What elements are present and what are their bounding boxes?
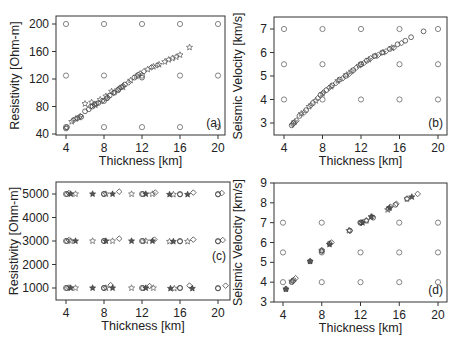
x-tick-label: 4 bbox=[63, 306, 70, 320]
x-tick-label: 20 bbox=[431, 141, 445, 155]
x-tick-label: 8 bbox=[318, 308, 325, 322]
reference-point-circle-icon bbox=[177, 125, 182, 130]
panel-b-points bbox=[281, 26, 440, 127]
data-point-star-icon bbox=[186, 44, 192, 50]
y-tick-label: 4000 bbox=[22, 211, 49, 225]
data-point-circle-icon bbox=[178, 286, 183, 291]
y-tick-label: 40 bbox=[36, 127, 50, 141]
panel-d-y-label: Seismic Velocity [km/s] bbox=[231, 179, 245, 306]
data-point-star-icon bbox=[185, 238, 191, 244]
reference-point-circle-icon bbox=[435, 97, 440, 102]
reference-point-circle-icon bbox=[101, 125, 106, 130]
reference-point-circle-icon bbox=[280, 280, 285, 285]
reference-point-circle-icon bbox=[320, 97, 325, 102]
reference-point-circle-icon bbox=[139, 21, 144, 26]
panel-d-tag: (d) bbox=[428, 283, 443, 297]
x-tick-label: 20 bbox=[211, 306, 225, 320]
data-point-star-icon bbox=[82, 101, 88, 107]
y-tick-label: 200 bbox=[29, 17, 49, 31]
reference-point-circle-icon bbox=[320, 26, 325, 31]
y-tick-label: 120 bbox=[29, 72, 49, 86]
panel-a-points bbox=[63, 21, 220, 130]
data-point-star-icon bbox=[129, 238, 135, 244]
data-point-star-icon bbox=[150, 285, 156, 291]
data-point-star-icon bbox=[298, 110, 304, 116]
panel-b-velocity-vs-thickness: 48121620 34567 Thickness [km] Seismic Ve… bbox=[231, 12, 447, 168]
panel-c-y-axis: 10002000300040005000 bbox=[22, 187, 56, 295]
data-point-diamond-icon bbox=[394, 201, 400, 207]
panel-c-x-axis: 48121620 bbox=[63, 300, 225, 320]
data-point-diamond-icon bbox=[116, 189, 122, 195]
y-tick-label: 6 bbox=[260, 236, 267, 250]
data-point-circle-icon bbox=[421, 29, 426, 34]
panel-d-velocity-vs-thickness: 48121620 3456789 Thickness [km] Seismic … bbox=[231, 176, 447, 335]
reference-point-circle-icon bbox=[281, 62, 286, 67]
panel-c-frame bbox=[56, 182, 230, 300]
x-tick-label: 12 bbox=[354, 141, 368, 155]
x-tick-label: 16 bbox=[393, 308, 407, 322]
y-tick-label: 6 bbox=[260, 46, 267, 60]
y-tick-label: 1000 bbox=[22, 281, 49, 295]
data-point-star-icon bbox=[72, 238, 78, 244]
panel-a-resistivity-vs-thickness: 48121620 4080120160200 Thickness [km] Re… bbox=[8, 16, 225, 168]
x-tick-label: 8 bbox=[101, 141, 108, 155]
data-point-circle-icon bbox=[409, 35, 414, 40]
data-point-star-icon bbox=[129, 285, 135, 291]
reference-point-circle-icon bbox=[215, 21, 220, 26]
data-point-diamond-icon bbox=[116, 236, 122, 242]
reference-point-circle-icon bbox=[177, 73, 182, 78]
reference-point-circle-icon bbox=[101, 21, 106, 26]
x-tick-label: 16 bbox=[393, 141, 407, 155]
x-tick-label: 12 bbox=[135, 141, 149, 155]
data-point-star-icon bbox=[149, 191, 155, 197]
panel-d-y-axis: 3456789 bbox=[260, 176, 274, 309]
data-point-diamond-icon bbox=[415, 191, 421, 197]
data-point-star-icon bbox=[185, 191, 191, 197]
data-point-star-icon bbox=[129, 191, 135, 197]
y-tick-label: 9 bbox=[260, 176, 267, 190]
reference-point-circle-icon bbox=[319, 280, 324, 285]
reference-point-circle-icon bbox=[280, 250, 285, 255]
panel-a-y-label: Resistivity [Ohm-m] bbox=[8, 21, 22, 129]
y-tick-label: 4 bbox=[260, 93, 267, 107]
data-point-diamond-icon bbox=[191, 190, 197, 196]
y-tick-label: 5 bbox=[260, 255, 267, 269]
reference-point-circle-icon bbox=[397, 280, 402, 285]
reference-point-circle-icon bbox=[280, 220, 285, 225]
x-tick-label: 8 bbox=[101, 306, 108, 320]
x-tick-label: 4 bbox=[63, 141, 70, 155]
x-tick-label: 16 bbox=[173, 141, 187, 155]
y-tick-label: 5000 bbox=[22, 187, 49, 201]
reference-point-circle-icon bbox=[63, 21, 68, 26]
data-point-star-icon bbox=[97, 96, 103, 102]
panel-a-y-axis: 4080120160200 bbox=[29, 17, 56, 141]
y-tick-label: 8 bbox=[260, 196, 267, 210]
y-tick-label: 3000 bbox=[22, 234, 49, 248]
panel-c-y-label: Resistivity [Ohm-m] bbox=[7, 187, 21, 295]
figure: 48121620 4080120160200 Thickness [km] Re… bbox=[0, 0, 464, 349]
reference-point-circle-icon bbox=[319, 220, 324, 225]
data-point-star-icon bbox=[90, 285, 96, 291]
panel-d-x-label: Thickness [km] bbox=[319, 321, 402, 335]
panel-b-tag: (b) bbox=[428, 116, 443, 130]
reference-point-circle-icon bbox=[397, 250, 402, 255]
data-point-star-icon bbox=[90, 238, 96, 244]
data-point-star-icon bbox=[90, 191, 96, 197]
reference-point-circle-icon bbox=[358, 26, 363, 31]
x-tick-label: 8 bbox=[319, 141, 326, 155]
panel-c-x-label: Thickness [km] bbox=[101, 319, 184, 333]
data-point-star-icon bbox=[189, 285, 195, 291]
reference-point-circle-icon bbox=[358, 250, 363, 255]
x-tick-label: 4 bbox=[281, 141, 288, 155]
data-point-star-icon bbox=[72, 191, 78, 197]
panel-a-x-axis: 48121620 bbox=[63, 135, 225, 155]
data-point-circle-icon bbox=[324, 88, 329, 93]
reference-point-circle-icon bbox=[358, 97, 363, 102]
reference-point-circle-icon bbox=[215, 73, 220, 78]
reference-point-circle-icon bbox=[397, 26, 402, 31]
y-tick-label: 2000 bbox=[22, 258, 49, 272]
reference-point-circle-icon bbox=[281, 97, 286, 102]
reference-point-circle-icon bbox=[397, 62, 402, 67]
data-point-star-icon bbox=[344, 72, 350, 78]
data-point-star-icon bbox=[328, 83, 334, 89]
